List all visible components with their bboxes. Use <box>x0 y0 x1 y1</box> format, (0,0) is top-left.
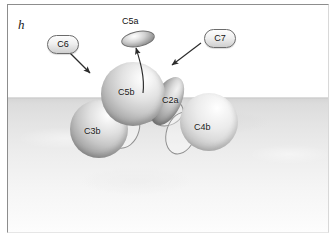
panel-letter: h <box>18 17 25 33</box>
label-c5b: C5b <box>118 87 135 97</box>
callout-c6-label: C6 <box>57 40 69 49</box>
callout-c6[interactable]: C6 <box>47 35 79 54</box>
label-c4b: C4b <box>194 122 211 132</box>
label-c3b: C3b <box>84 126 101 136</box>
label-c5a: C5a <box>122 16 139 26</box>
callout-c7[interactable]: C7 <box>204 29 236 48</box>
callout-c7-label: C7 <box>214 34 226 43</box>
label-c2a: C2a <box>162 95 179 105</box>
figure-plate: h C6 C7 <box>7 4 329 233</box>
figure-panel: h C6 C7 <box>0 0 332 235</box>
